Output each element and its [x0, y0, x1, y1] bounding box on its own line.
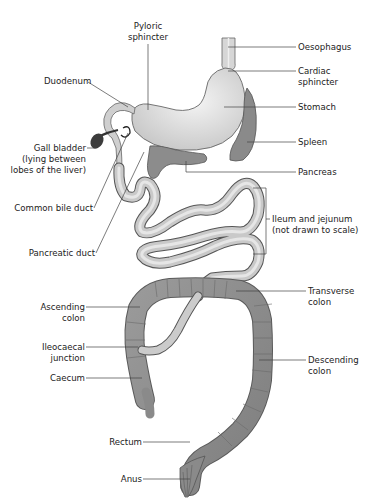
label-descending-colon: Descendingcolon	[308, 355, 359, 376]
label-duodenum: Duodenum	[44, 76, 91, 86]
digestive-system-diagram: Pyloricsphincter Duodenum Oesophagus Car…	[0, 0, 373, 501]
label-transverse-colon: Transversecolon	[307, 286, 354, 307]
label-pancreatic-duct: Pancreatic duct	[29, 248, 96, 258]
label-common-bile-duct: Common bile duct	[14, 203, 93, 213]
label-gall-bladder: Gall bladder(lying betweenlobes of the l…	[11, 143, 87, 175]
label-pyloric-sphincter: Pyloricsphincter	[128, 21, 169, 42]
label-rectum: Rectum	[109, 437, 142, 447]
common-bile-duct-hook	[121, 127, 130, 137]
caecum	[146, 392, 150, 414]
oesophagus	[222, 38, 235, 70]
label-oesophagus: Oesophagus	[298, 42, 352, 52]
label-stomach: Stomach	[298, 102, 336, 112]
label-anus: Anus	[121, 474, 143, 484]
label-cardiac-sphincter: Cardiacsphincter	[298, 66, 339, 87]
label-ascending-colon: Ascendingcolon	[40, 302, 85, 323]
label-ileocaecal-junction: Ileocaecaljunction	[42, 342, 85, 363]
label-caecum: Caecum	[50, 373, 85, 383]
stomach	[132, 68, 245, 150]
pancreas	[147, 146, 206, 179]
label-pancreas: Pancreas	[298, 167, 337, 177]
label-ileum-jejunum: Ileum and jejunum(not drawn to scale)	[272, 214, 358, 235]
label-spleen: Spleen	[298, 137, 327, 147]
duodenum	[104, 103, 135, 170]
